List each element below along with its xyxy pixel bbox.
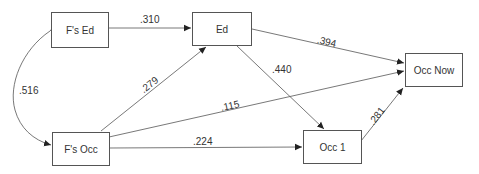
node-fs-ed: F's Ed [51, 12, 109, 48]
coef-fsocc-occ1: .224 [193, 136, 212, 147]
edge-ed-occ1 [237, 46, 324, 129]
node-label: F's Ed [66, 25, 94, 36]
edge-fsocc-ed [101, 47, 206, 131]
node-ed: Ed [192, 12, 252, 46]
node-label: F's Occ [64, 144, 98, 155]
node-label: Occ 1 [319, 142, 345, 153]
node-occ-now: Occ Now [405, 53, 463, 87]
node-label: Occ Now [414, 65, 455, 76]
edge-fsocc-occ1 [109, 147, 302, 148]
node-occ1: Occ 1 [303, 130, 362, 164]
node-fs-occ: F's Occ [52, 132, 110, 166]
node-label: Ed [216, 24, 228, 35]
coef-fsed-ed: .310 [140, 14, 159, 25]
coef-ed-occ1: .440 [272, 64, 291, 75]
coef-fsed-fsocc: .516 [19, 85, 38, 96]
